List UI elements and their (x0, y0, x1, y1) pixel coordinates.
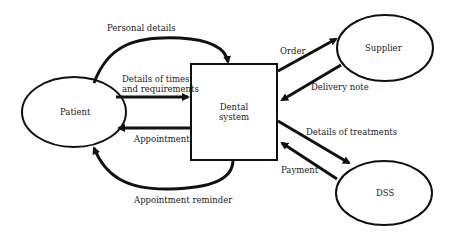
dental-system-label: Dental system (211, 102, 257, 122)
appointment-label: Appointment (134, 134, 190, 144)
appointment-reminder-label: Appointment reminder (134, 195, 232, 205)
dss-label: DSS (376, 188, 394, 198)
delivery-note-label: Delivery note (311, 82, 369, 92)
payment-label: Payment (281, 165, 318, 175)
dental-system-label-line2: system (211, 112, 257, 122)
order-label: Order (280, 46, 306, 56)
personal-details-label: Personal details (107, 23, 176, 33)
supplier-label: Supplier (365, 43, 402, 53)
details-times-label-line2: and requirements (122, 84, 199, 94)
details-times-label: Details of times and requirements (122, 74, 199, 94)
patient-label: Patient (60, 107, 90, 117)
appointment-reminder-arrow (94, 148, 233, 189)
details-times-label-line1: Details of times (122, 74, 199, 84)
dental-system-label-line1: Dental (211, 102, 257, 112)
details-treatments-label: Details of treatments (306, 127, 397, 137)
